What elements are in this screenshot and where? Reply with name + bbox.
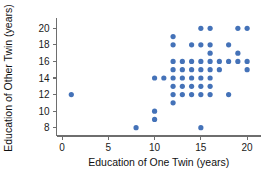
scatter-plot-canvas: 8101214161820 05101520 Education of One … [0,0,267,184]
y-axis-title: Education of Other Twin (years) [2,4,14,151]
y-tick-label: 8 [44,122,50,133]
data-point [152,75,157,80]
data-point [217,59,222,64]
data-point [245,59,250,64]
data-point [226,92,231,97]
data-point [198,59,203,64]
data-point [198,75,203,80]
data-point [170,75,175,80]
data-point [208,42,213,47]
data-point [170,59,175,64]
data-point [208,84,213,89]
data-point [235,26,240,31]
data-point [208,59,213,64]
data-point [152,109,157,114]
y-tick-label: 14 [38,73,50,84]
data-point [245,26,250,31]
data-point [189,75,194,80]
y-tick-label: 16 [38,56,50,67]
data-point [170,34,175,39]
y-axis-ticks: 8101214161820 [38,23,56,133]
data-point [152,117,157,122]
data-point [198,67,203,72]
data-point [170,84,175,89]
data-point [198,42,203,47]
data-point [198,84,203,89]
data-point [180,75,185,80]
data-point [170,100,175,105]
data-point [180,67,185,72]
x-tick-label: 0 [59,142,65,153]
data-point [180,92,185,97]
y-tick-label: 10 [38,106,50,117]
data-point [245,67,250,72]
data-point [208,75,213,80]
data-point [226,42,231,47]
x-axis-ticks: 05101520 [59,136,253,153]
x-tick-label: 15 [195,142,207,153]
data-point [170,42,175,47]
data-point [208,67,213,72]
data-point [170,92,175,97]
data-point [170,67,175,72]
data-point [235,59,240,64]
data-point [180,84,185,89]
data-point [189,92,194,97]
data-point [180,59,185,64]
data-point [226,59,231,64]
data-point [189,59,194,64]
data-point [189,67,194,72]
data-point [198,92,203,97]
x-tick-label: 5 [106,142,112,153]
data-point [208,92,213,97]
x-tick-label: 10 [149,142,161,153]
y-tick-label: 12 [38,89,50,100]
x-tick-label: 20 [242,142,254,153]
data-point [69,92,74,97]
data-point [189,42,194,47]
data-point [208,26,213,31]
y-tick-label: 20 [38,23,50,34]
y-tick-label: 18 [38,39,50,50]
data-points-group [69,26,250,131]
data-point [208,51,213,56]
data-point [198,26,203,31]
x-axis-title: Education of One Twin (years) [88,156,229,168]
data-point [217,67,222,72]
data-point [198,125,203,130]
data-point [189,84,194,89]
data-point [133,125,138,130]
data-point [161,75,166,80]
data-point [235,51,240,56]
scatter-plot-figure: 8101214161820 05101520 Education of One … [0,0,267,184]
